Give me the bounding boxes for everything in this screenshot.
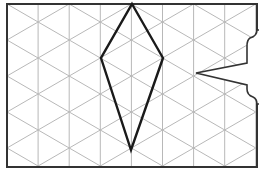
diagram-canvas <box>0 0 259 175</box>
grid-frame <box>7 4 257 167</box>
grid-diagram <box>0 0 259 175</box>
kite-shape <box>101 4 163 150</box>
